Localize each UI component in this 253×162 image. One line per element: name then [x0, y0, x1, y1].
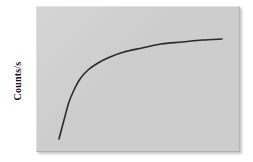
counts-rate-curve: [59, 39, 222, 139]
plot-canvas: [0, 0, 253, 162]
figure-container: Counts/s: [0, 0, 253, 162]
